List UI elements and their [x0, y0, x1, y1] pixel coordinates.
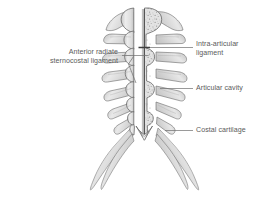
sternum-illustration [0, 0, 269, 202]
anatomy-figure: Anterior radiate sternocostal ligament I… [0, 0, 269, 202]
label-articular-cavity: Articular cavity [196, 84, 268, 93]
label-anterior-radiate-sternocostal-ligament: Anterior radiate sternocostal ligament [10, 48, 118, 66]
label-costal-cartilage: Costal cartilage [196, 126, 268, 135]
label-intra-articular-ligament: Intra-articular ligament [196, 40, 268, 58]
